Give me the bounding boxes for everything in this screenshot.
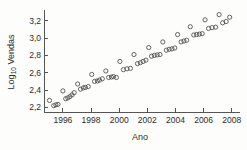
data-point bbox=[149, 54, 153, 58]
data-point bbox=[90, 72, 94, 76]
data-point bbox=[147, 45, 151, 49]
data-point bbox=[182, 39, 186, 43]
x-tick-label: 1996 bbox=[53, 115, 72, 125]
plot-canvas: 2,22,42,62,83,03,2 199619982000200220042… bbox=[0, 0, 247, 150]
data-point bbox=[104, 69, 108, 73]
data-point bbox=[228, 15, 232, 19]
data-point bbox=[188, 25, 192, 29]
x-tick-label: 2006 bbox=[194, 115, 213, 125]
x-tick-label: 2000 bbox=[110, 115, 129, 125]
data-point bbox=[76, 82, 80, 86]
data-points-group bbox=[47, 13, 231, 108]
x-axis-ticks: 1996199820002002200420062008 bbox=[53, 108, 241, 125]
data-point bbox=[114, 75, 118, 79]
y-axis-ticks: 2,22,42,62,83,03,2 bbox=[29, 16, 48, 113]
y-axis-title-rest: Vendas bbox=[6, 34, 16, 67]
y-axis-title-base: Log bbox=[6, 74, 16, 89]
data-point bbox=[200, 32, 204, 36]
data-point bbox=[217, 13, 221, 17]
x-tick-label: 2008 bbox=[222, 115, 241, 125]
data-point bbox=[185, 38, 189, 42]
x-tick-label: 1998 bbox=[82, 115, 101, 125]
data-point bbox=[135, 62, 139, 66]
data-point bbox=[164, 48, 168, 52]
data-point bbox=[158, 52, 162, 56]
x-tick-label: 2004 bbox=[166, 115, 185, 125]
scatter-chart-figure: 2,22,42,62,83,03,2 199619982000200220042… bbox=[0, 0, 247, 150]
data-point bbox=[61, 89, 65, 93]
y-tick-label: 2,4 bbox=[29, 85, 41, 95]
y-axis-title-text: Log10 Vendas bbox=[6, 34, 17, 89]
data-point bbox=[132, 52, 136, 56]
y-tick-label: 2,8 bbox=[29, 50, 41, 60]
y-tick-label: 2,2 bbox=[29, 102, 41, 112]
y-tick-label: 3,0 bbox=[29, 33, 41, 43]
data-point bbox=[179, 40, 183, 44]
data-point bbox=[175, 32, 179, 36]
x-axis-title-text: Ano bbox=[132, 132, 148, 142]
y-tick-label: 3,2 bbox=[29, 16, 41, 26]
data-point bbox=[47, 98, 51, 102]
data-point bbox=[161, 40, 165, 44]
x-tick-label: 2002 bbox=[138, 115, 157, 125]
data-point bbox=[118, 59, 122, 63]
data-point bbox=[86, 84, 90, 88]
data-point bbox=[203, 18, 207, 22]
data-point bbox=[170, 47, 174, 51]
y-tick-label: 2,6 bbox=[29, 68, 41, 78]
data-point bbox=[173, 46, 177, 50]
y-axis-title: Log10 Vendas bbox=[6, 34, 17, 89]
